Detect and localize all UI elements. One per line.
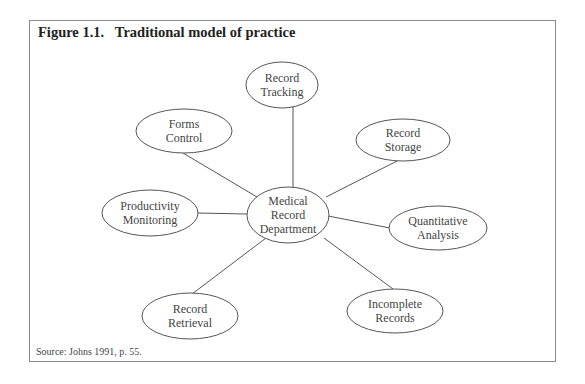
- node-label: Monitoring: [123, 213, 178, 227]
- node-label: Analysis: [417, 228, 459, 242]
- node-productivity: ProductivityMonitoring: [102, 190, 198, 236]
- node-label: Medical: [268, 194, 308, 208]
- node-label: Quantitative: [408, 214, 467, 228]
- node-label: Record: [173, 302, 208, 316]
- node-label: Department: [260, 222, 317, 236]
- node-incomplete: IncompleteRecords: [347, 289, 443, 333]
- figure-source: Source: Johns 1991, p. 55.: [36, 346, 142, 357]
- node-forms: FormsControl: [136, 109, 232, 153]
- node-tracking: RecordTracking: [246, 62, 318, 108]
- node-label: Forms: [169, 117, 200, 131]
- node-label: Records: [375, 311, 415, 325]
- node-quantitative: QuantitativeAnalysis: [389, 206, 487, 250]
- hub-diagram: MedicalRecordDepartmentRecordTrackingRec…: [0, 0, 585, 384]
- node-label: Record: [265, 71, 300, 85]
- node-label: Record: [386, 126, 421, 140]
- node-retrieval: RecordRetrieval: [142, 293, 238, 339]
- node-label: Incomplete: [368, 297, 422, 311]
- edge-center-to-productivity: [198, 213, 247, 214]
- edge-center-to-storage: [326, 160, 399, 197]
- node-center: MedicalRecordDepartment: [247, 187, 329, 243]
- node-label: Retrieval: [168, 316, 213, 330]
- node-label: Tracking: [261, 85, 304, 99]
- node-storage: RecordStorage: [356, 119, 450, 161]
- edge-center-to-retrieval: [192, 238, 266, 294]
- node-label: Productivity: [120, 199, 179, 213]
- edge-center-to-forms: [183, 153, 262, 200]
- node-label: Control: [166, 131, 203, 145]
- edge-center-to-quantitative: [328, 216, 390, 228]
- node-label: Storage: [385, 140, 422, 154]
- node-label: Record: [271, 208, 306, 222]
- edge-center-to-incomplete: [324, 238, 393, 289]
